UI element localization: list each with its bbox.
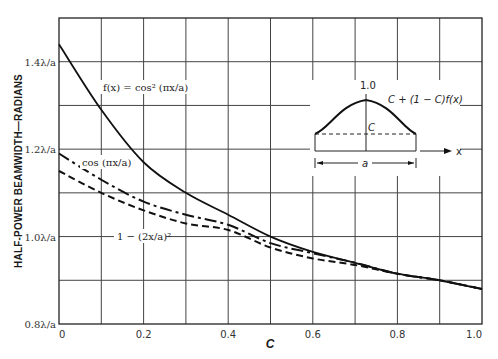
inset-x-label: x xyxy=(456,146,462,157)
inset-peak-label: 1.0 xyxy=(360,80,376,91)
y-tick-label: 0.8λ/a xyxy=(24,319,56,330)
x-tick-label: 0 xyxy=(59,329,65,340)
x-tick-label: 0.2 xyxy=(136,329,152,340)
y-axis-ticks: 0.8λ/a1.0λ/a1.2λ/a1.4λ/a xyxy=(24,57,56,330)
annotation-cos: cos (πx/a) xyxy=(82,157,131,168)
x-axis-label: C xyxy=(266,337,275,351)
y-tick-label: 1.2λ/a xyxy=(24,144,56,155)
inset-diagram: x 1.0 C + (1 − C)f(x) C a xyxy=(310,80,463,176)
x-tick-label: 0.8 xyxy=(389,329,405,340)
inset-width-label: a xyxy=(362,158,368,169)
beamwidth-chart: 0.8λ/a1.0λ/a1.2λ/a1.4λ/a 00.20.40.60.81.… xyxy=(0,0,498,359)
annotation-cos-squared: f(x) = cos² (πx/a) xyxy=(103,82,188,93)
y-axis-label: HALF-POWER BEAMWIDTH—RADIANS xyxy=(13,74,24,268)
x-tick-label: 0.6 xyxy=(305,329,321,340)
annotation-parabolic: 1 − (2x/a)² xyxy=(117,231,171,242)
y-tick-label: 1.0λ/a xyxy=(24,232,56,243)
x-tick-label: 0.4 xyxy=(220,329,236,340)
inset-pedestal-label: C xyxy=(368,122,375,133)
inset-curve-label: C + (1 − C)f(x) xyxy=(388,94,463,105)
x-tick-label: 1.0 xyxy=(466,329,482,340)
y-tick-label: 1.4λ/a xyxy=(24,57,56,68)
